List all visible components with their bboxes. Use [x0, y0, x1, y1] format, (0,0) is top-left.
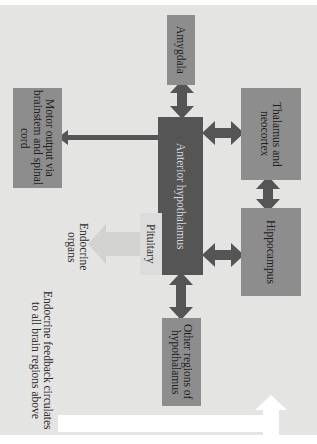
- node-hippocampus: Hippocampus: [241, 208, 301, 296]
- node-anterior-hypothalamus: Anterior hypothalamus: [158, 117, 203, 275]
- arrow-amygdala-anterior: [170, 80, 194, 119]
- node-anterior-hypothalamus-label: Anterior hypothalamus: [174, 143, 186, 249]
- node-motor-output-label: Motor output via brainstem and spinal co…: [19, 88, 55, 188]
- arrow-pituitary-to-endocrine: [88, 224, 140, 264]
- arrow-other-anterior: [169, 272, 193, 320]
- node-motor-output: Motor output via brainstem and spinal co…: [13, 88, 62, 188]
- node-amygdala: Amygdala: [167, 15, 195, 85]
- node-amygdala-label: Amygdala: [175, 26, 187, 74]
- node-endocrine-organs: Endocrine organs: [66, 222, 90, 272]
- node-other-hypothalamus-label: Other regions of hypothalamus: [169, 318, 193, 406]
- node-pituitary-label: Pituitary: [145, 224, 157, 264]
- arrow-anterior-to-motor: [58, 130, 159, 145]
- arrow-thalamus-hippocampus: [256, 176, 280, 212]
- node-pituitary: Pituitary: [140, 213, 162, 275]
- arrow-thalamus-anterior: [202, 121, 244, 145]
- feedback-label: Endocrine feedback circulates to all bra…: [30, 290, 54, 430]
- node-hippocampus-label: Hippocampus: [265, 220, 277, 284]
- node-other-hypothalamus: Other regions of hypothalamus: [162, 318, 201, 406]
- node-thalamus-neocortex: Thalamus and neocortex: [241, 88, 301, 180]
- arrow-hippocampus-anterior: [202, 243, 244, 267]
- node-thalamus-neocortex-label: Thalamus and neocortex: [259, 88, 283, 180]
